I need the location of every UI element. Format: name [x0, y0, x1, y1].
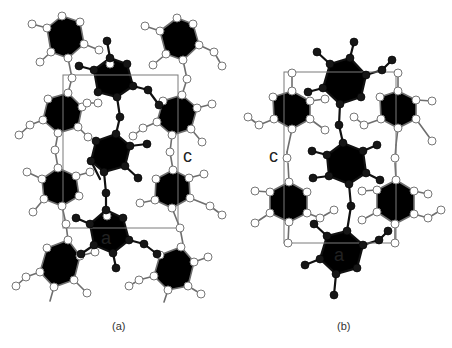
axis-label-c-b: c	[269, 146, 278, 166]
axis-label-a-b: a	[334, 245, 345, 265]
panel-caption-a: (a)	[112, 320, 125, 332]
axis-label-a-a: a	[101, 228, 112, 248]
figure-canvas: c a (a)	[0, 0, 452, 348]
axis-label-c-a: c	[183, 146, 192, 166]
panel-a: c a (a)	[12, 12, 226, 332]
panel-caption-b: (b)	[337, 320, 350, 332]
panel-b: c a (b)	[244, 38, 445, 332]
